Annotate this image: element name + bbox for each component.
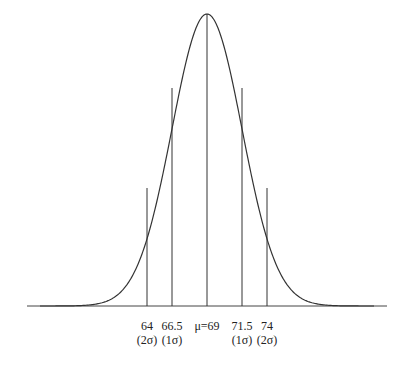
label-plus-1sd-note: (1σ) [232,333,253,347]
label-minus-2sd-note: (2σ) [137,333,157,347]
label-minus-1sd-value: 66.5 [162,319,183,333]
label-mean: μ=69 [194,319,219,333]
label-plus-2sd: 74 (2σ) [257,319,277,347]
label-plus-1sd: 71.5 (1σ) [232,319,253,347]
normal-distribution-diagram [0,0,404,369]
label-plus-2sd-note: (2σ) [257,333,277,347]
label-mean-value: μ=69 [194,319,219,333]
label-minus-2sd-value: 64 [137,319,157,333]
label-plus-1sd-value: 71.5 [232,319,253,333]
label-plus-2sd-value: 74 [257,319,277,333]
label-minus-2sd: 64 (2σ) [137,319,157,347]
label-minus-1sd: 66.5 (1σ) [162,319,183,347]
label-minus-1sd-note: (1σ) [162,333,183,347]
